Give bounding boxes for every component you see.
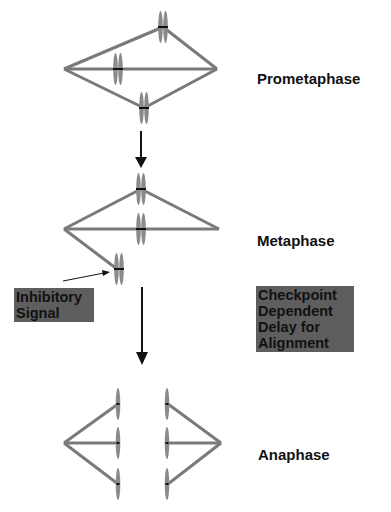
label-prometaphase: Prometaphase (257, 70, 360, 87)
checkpoint-line-4: Alignment (258, 335, 352, 351)
progression-arrow-2 (136, 287, 148, 365)
chromosome (139, 92, 149, 124)
checkpoint-line-3: Delay for (258, 319, 352, 335)
checkpoint-line-2: Dependent (258, 303, 352, 319)
chromatid (116, 468, 121, 500)
inhibitory-signal-arrow (63, 270, 110, 281)
anaphase-spindle (64, 404, 221, 484)
chromatid (116, 427, 121, 459)
label-metaphase: Metaphase (257, 232, 335, 249)
label-anaphase: Anaphase (258, 446, 330, 463)
chromatid (165, 468, 170, 500)
checkpoint-delay-box: Checkpoint Dependent Delay for Alignment (256, 286, 354, 352)
unattached-chromosome (114, 253, 124, 285)
chromosome (113, 53, 123, 85)
inhibitory-line-1: Inhibitory (16, 289, 92, 305)
chromosome (158, 11, 168, 43)
chromosome (136, 173, 146, 205)
inhibitory-signal-box: Inhibitory Signal (14, 288, 94, 322)
chromatid (116, 388, 121, 420)
progression-arrow-1 (135, 131, 147, 168)
checkpoint-line-1: Checkpoint (258, 287, 352, 303)
chromosome (136, 213, 146, 245)
chromatid (165, 427, 170, 459)
inhibitory-line-2: Signal (16, 305, 92, 321)
chromatid (165, 388, 170, 420)
